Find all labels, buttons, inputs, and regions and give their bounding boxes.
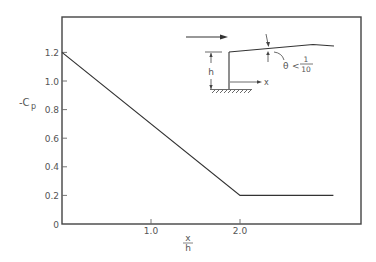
theta-relation: <	[292, 61, 300, 71]
y-axis-label: -C p	[19, 97, 36, 111]
x-tick-label: 1.0	[144, 226, 159, 236]
wind-arrow-icon	[186, 35, 228, 40]
theta-symbol: θ	[283, 61, 289, 71]
plot-frame	[62, 17, 361, 224]
x-axis-label: x h	[183, 233, 193, 253]
y-tick-label: 0.8	[45, 105, 60, 115]
y-tick-label: 0.6	[45, 134, 60, 144]
y-tick-label: 0	[53, 220, 59, 230]
y-tick-label: 0.4	[45, 162, 60, 172]
height-dimension: h	[205, 52, 222, 89]
x-direction-arrow: x	[230, 78, 269, 87]
angle-label: θ < 1 10	[283, 55, 313, 74]
building-roof	[229, 45, 334, 53]
theta-numerator: 1	[304, 55, 309, 64]
y-label-subscript: p	[31, 102, 36, 111]
x-label-numerator: x	[185, 233, 191, 243]
y-axis-ticks: 00.20.40.60.81.01.2	[45, 48, 67, 230]
y-label-main: -C	[19, 97, 30, 108]
y-tick-label: 1.2	[45, 48, 59, 58]
height-label: h	[208, 67, 214, 77]
chart-svg: 00.20.40.60.81.01.2 1.02.0 -C p x h	[0, 0, 376, 262]
angle-leader-line	[274, 52, 284, 60]
theta-denominator: 10	[301, 65, 311, 74]
x-direction-label: x	[264, 78, 269, 87]
data-line-cp	[62, 52, 333, 195]
chart-container: 00.20.40.60.81.01.2 1.02.0 -C p x h	[0, 0, 376, 262]
inset-diagram: h x θ < 1 10	[186, 34, 334, 93]
x-axis-ticks: 1.02.0	[144, 219, 248, 236]
x-tick-label: 2.0	[233, 226, 248, 236]
x-label-denominator: h	[185, 243, 191, 253]
ground-hatching	[210, 90, 252, 94]
y-tick-label: 1.0	[45, 77, 60, 87]
y-tick-label: 0.2	[45, 191, 59, 201]
